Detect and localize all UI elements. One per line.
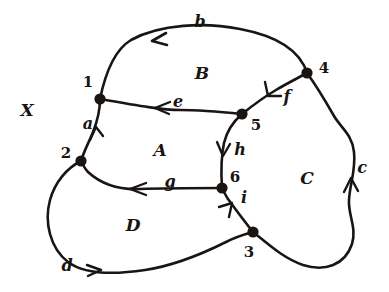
edge-label-c: c (357, 160, 367, 176)
vertex-label-4: 4 (319, 61, 329, 76)
vertex-label-6: 6 (230, 170, 240, 185)
vertex-label-1: 1 (83, 75, 93, 90)
edge-label-d: d (61, 258, 72, 274)
edge-i-stroke (219, 188, 253, 232)
edge-label-i: i (241, 190, 247, 206)
edge-label-f: f (284, 89, 291, 105)
edge-label-b: b (194, 14, 205, 30)
vertex-label-5: 5 (251, 118, 261, 133)
vertex-label-3: 3 (244, 245, 254, 260)
region-label-b: B (195, 65, 209, 82)
space-label-x: X (20, 102, 33, 119)
edge-e-stroke (100, 99, 242, 114)
vertex-dot-1[interactable] (94, 93, 105, 104)
vertex-dot-4[interactable] (301, 67, 312, 78)
vertex-dot-6[interactable] (216, 182, 227, 193)
edge-label-e: e (173, 94, 183, 110)
vertex-dot-3[interactable] (247, 226, 258, 237)
edge-label-a: a (83, 116, 93, 132)
edge-f-stroke (242, 73, 307, 114)
region-label-a: A (153, 142, 166, 159)
region-label-d: D (126, 217, 141, 234)
vertex-label-2: 2 (61, 146, 71, 161)
diagram-canvas: X A B C D 1 2 3 4 5 6 a b c d e f g h i (0, 0, 389, 292)
diagram-strokes (0, 0, 389, 292)
edge-label-h: h (234, 142, 246, 158)
edge-g-stroke (81, 161, 222, 195)
vertex-dot-2[interactable] (75, 155, 86, 166)
vertex-dot-5[interactable] (236, 108, 247, 119)
edge-label-g: g (164, 174, 175, 190)
region-label-c: C (300, 170, 314, 187)
